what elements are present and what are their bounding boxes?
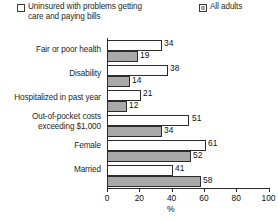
open-square-icon (17, 4, 25, 12)
bar-value: 38 (170, 63, 179, 74)
filled-square-icon (199, 4, 207, 12)
x-tick-label: 100 (262, 193, 276, 203)
bar-uninsured-female (107, 140, 206, 151)
bar-all-adults-disability (107, 76, 130, 87)
x-tick-40 (172, 188, 173, 192)
bar-value: 21 (143, 88, 152, 99)
bar-value: 34 (164, 38, 173, 49)
x-axis-title: % (167, 204, 175, 214)
bar-value: 14 (132, 75, 141, 86)
bar-uninsured-married (107, 165, 173, 176)
x-tick-0 (107, 188, 108, 192)
bar-all-adults-hospitalized (107, 101, 127, 112)
x-tick-100 (269, 188, 270, 192)
x-tick-label: 20 (135, 193, 144, 203)
x-tick-60 (204, 188, 205, 192)
bar-value: 12 (129, 100, 138, 111)
x-axis-line (107, 188, 269, 189)
category-label-married: Married (0, 165, 101, 175)
chart-legend: Uninsured with problems getting care and… (0, 0, 278, 34)
category-label-fair-or-poor-health: Fair or poor health (0, 45, 101, 55)
bar-value: 58 (203, 175, 212, 186)
bar-value: 52 (193, 150, 202, 161)
category-label-female: Female (0, 141, 101, 151)
legend-item-all-adults: All adults (199, 2, 277, 12)
x-tick-80 (236, 188, 237, 192)
x-tick-label: 60 (199, 193, 208, 203)
x-tick-label: 0 (105, 193, 110, 203)
axis-area: 34 19 38 14 21 12 51 34 61 52 (107, 38, 277, 188)
bar-value: 34 (164, 125, 173, 136)
bar-all-adults-out-of-pocket-costs (107, 126, 162, 137)
bar-value: 41 (175, 163, 184, 174)
plot-area: Fair or poor health Disability Hospitali… (0, 38, 278, 221)
bar-uninsured-fair-or-poor-health (107, 40, 162, 51)
bar-all-adults-female (107, 151, 191, 162)
bar-value: 61 (208, 138, 217, 149)
bar-all-adults-fair-or-poor-health (107, 51, 138, 62)
x-tick-label: 80 (232, 193, 241, 203)
bar-chart: Uninsured with problems getting care and… (0, 0, 278, 221)
category-label-hospitalized: Hospitalized in past year (0, 93, 101, 103)
x-tick-label: 40 (167, 193, 176, 203)
category-label-out-of-pocket-costs: Out-of-pocket costs exceeding $1,000 (0, 112, 101, 131)
bar-value: 51 (192, 113, 201, 124)
legend-item-uninsured: Uninsured with problems getting care and… (17, 2, 189, 22)
bar-uninsured-out-of-pocket-costs (107, 115, 189, 126)
bar-all-adults-married (107, 176, 201, 187)
bar-value: 19 (140, 50, 149, 61)
category-label-disability: Disability (0, 69, 101, 79)
legend-item-label: Uninsured with problems getting care and… (28, 2, 142, 22)
x-tick-20 (139, 188, 140, 192)
category-axis-labels: Fair or poor health Disability Hospitali… (0, 38, 104, 188)
legend-item-label: All adults (210, 2, 242, 12)
